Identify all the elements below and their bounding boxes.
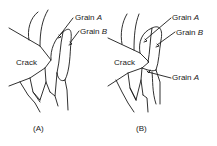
label-letter: A xyxy=(97,13,102,22)
panel-a-grain-b-boundary xyxy=(63,29,71,80)
panel-b-leader-grain-a xyxy=(145,18,171,40)
panel-b-leader-grain-b xyxy=(157,32,175,45)
panel-b-leader-lower-grain-a xyxy=(148,72,171,78)
label-letter: A xyxy=(194,73,199,82)
label-prefix: Grain xyxy=(75,13,95,22)
label-prefix: Grain xyxy=(80,27,100,36)
label-prefix: Grain xyxy=(172,13,192,22)
panel-b-label-grain-a: Grain A xyxy=(172,13,199,22)
panel-b-caption: (B) xyxy=(136,124,147,133)
panel-a-label-grain-b: Grain B xyxy=(80,27,107,36)
label-letter: A xyxy=(194,13,199,22)
panel-a-grain-a-boundary xyxy=(51,32,63,73)
panel-a-caption: (A) xyxy=(33,124,44,133)
label-letter: B xyxy=(102,27,107,36)
panel-b-crack-label: Crack xyxy=(114,58,135,67)
panel-a-label-grain-a: Grain A xyxy=(75,13,102,22)
grain-crack-diagram: Crack Grain A Grain B (A) Crack Grain A … xyxy=(0,0,217,146)
label-letter: B xyxy=(198,28,203,37)
panel-a-crack-label: Crack xyxy=(16,58,37,67)
label-prefix: Grain xyxy=(176,28,196,37)
panel-b-label-lower-grain-a: Grain A xyxy=(172,73,199,82)
panel-b-lower-grain-a-boundary xyxy=(142,68,156,71)
panel-b-grain-a-boundary xyxy=(140,28,153,62)
panel-a-crack-outline xyxy=(9,28,51,86)
label-prefix: Grain xyxy=(172,73,192,82)
panel-b-label-grain-b: Grain B xyxy=(176,28,203,37)
